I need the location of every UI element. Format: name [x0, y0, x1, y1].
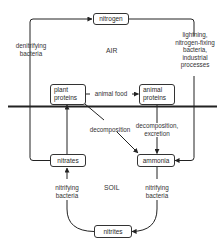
label-decomposition: decomposition — [86, 126, 134, 134]
node-plant-proteins: plant proteins — [50, 84, 86, 105]
label-nitrifying-bacteria-right: nitrifying bacteria — [138, 184, 176, 199]
label-animal-food: animal food — [90, 90, 132, 98]
node-animal-proteins: animal proteins — [139, 84, 175, 105]
node-ammonia: ammonia — [137, 154, 175, 167]
node-nitrates: nitrates — [50, 154, 86, 167]
node-nitrites: nitrites — [94, 225, 132, 238]
soil-region-label: SOIL — [104, 184, 120, 191]
arrow-fixation-bottom — [175, 76, 194, 161]
label-nitrifying-bacteria-left: nitrifying bacteria — [48, 184, 86, 199]
arrow-nitrites-to-nitrates — [67, 200, 94, 232]
air-region-label: AIR — [106, 47, 117, 54]
arrow-ammonia-to-nitrites — [132, 200, 157, 232]
label-fixation: lightning, nitrogen-fixing bacteria, ind… — [168, 31, 222, 69]
node-nitrogen: nitrogen — [93, 13, 129, 25]
label-denitrifying-bacteria: denitrifying bacteria — [8, 42, 54, 57]
label-decomposition-excretion: decomposition, excretion — [130, 122, 184, 137]
